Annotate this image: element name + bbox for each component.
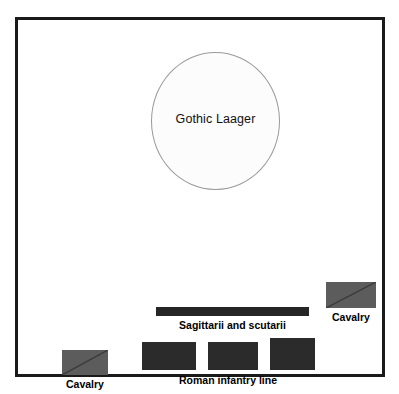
infantry-block-right [270,338,315,370]
cavalry-right-wing-box [326,282,376,308]
cavalry-diagonal-icon [326,282,376,308]
infantry-block-left [142,342,196,370]
cavalry-left-wing-box [62,350,108,375]
battle-formation-diagram: Gothic Laager Sagittarii and scutarii Ro… [0,0,399,394]
cavalry-right-wing-label: Cavalry [311,311,391,323]
cavalry-diagonal-icon [62,350,108,375]
sagittarii-scutarii-bar [156,307,309,316]
cavalry-left-wing-label: Cavalry [45,378,125,390]
map-frame: Gothic Laager Sagittarii and scutarii Ro… [15,17,385,377]
gothic-laager-label: Gothic Laager [151,112,280,126]
infantry-block-center [208,342,258,370]
sagittarii-scutarii-label: Sagittarii and scutarii [136,319,329,331]
roman-infantry-line-label: Roman infantry line [133,374,323,386]
